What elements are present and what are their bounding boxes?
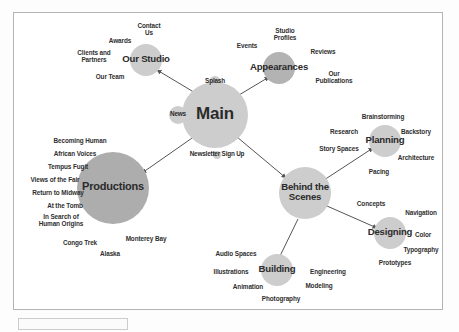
leaf-label[interactable]: Pacing — [357, 168, 401, 175]
leaf-label[interactable]: Navigation — [392, 209, 450, 216]
leaf-label[interactable]: Our Team — [85, 73, 135, 80]
leaf-label[interactable]: Our Publications — [304, 70, 364, 84]
leaf-label[interactable]: Views of the Fair — [15, 176, 95, 183]
leaf-label[interactable]: Clients and Partners — [66, 49, 122, 63]
node-label-planning[interactable]: Planning — [310, 135, 459, 145]
leaf-label[interactable]: Backstory — [388, 128, 444, 135]
leaf-label[interactable]: Architecture — [384, 154, 448, 161]
leaf-label[interactable]: Photography — [248, 295, 314, 302]
diagram-canvas: MainOur StudioAppearancesProductionsBehi… — [0, 0, 459, 332]
leaf-label[interactable]: Events — [227, 42, 267, 49]
leaf-label[interactable]: Monterey Bay — [113, 235, 179, 242]
leaf-label[interactable]: African Voices — [39, 150, 111, 157]
leaf-label[interactable]: Awards — [97, 37, 143, 44]
leaf-label[interactable]: Color — [404, 231, 442, 238]
leaf-label[interactable]: Story Spaces — [306, 145, 372, 152]
leaf-label[interactable]: Modeling — [293, 282, 345, 289]
leaf-label[interactable]: Illustrations — [200, 268, 262, 275]
leaf-label[interactable]: Audio Spaces — [203, 250, 269, 257]
leaf-label[interactable]: Becoming Human — [42, 137, 118, 144]
leaf-label[interactable]: Animation — [220, 283, 276, 290]
node-label-news[interactable]: News — [103, 111, 253, 118]
leaf-label[interactable]: Engineering — [296, 268, 360, 275]
leaf-label[interactable]: Reviews — [300, 48, 346, 55]
node-label-splash[interactable]: Splash — [140, 78, 290, 85]
frame-bottom-stub — [18, 318, 128, 330]
leaf-label[interactable]: Alaska — [87, 250, 133, 257]
leaf-label[interactable]: Research — [318, 128, 370, 135]
leaf-label[interactable]: Brainstorming — [348, 113, 418, 120]
leaf-label[interactable]: At the Tomb — [29, 202, 101, 209]
leaf-label[interactable]: Typography — [390, 246, 452, 253]
leaf-label[interactable]: Studio Profiles — [262, 27, 308, 41]
leaf-label[interactable]: In Search of Human Origins — [22, 213, 100, 227]
leaf-label[interactable]: Contact Us — [126, 22, 172, 36]
leaf-label[interactable]: Congo Trek — [51, 239, 109, 246]
leaf-label[interactable]: Return to Midway — [17, 189, 99, 196]
leaf-label[interactable]: Prototypes — [366, 259, 424, 266]
leaf-label[interactable]: Concepts — [345, 200, 397, 207]
leaf-label[interactable]: Tempus Fugit — [32, 163, 104, 170]
node-label-newsletter[interactable]: Newsletter Sign Up — [142, 151, 292, 158]
